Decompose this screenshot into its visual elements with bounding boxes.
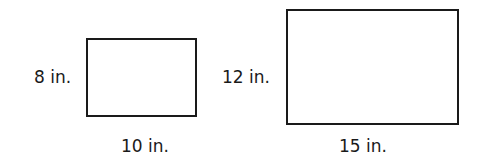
small-rectangle	[86, 38, 197, 117]
large-rectangle-width-label: 15 in.	[339, 136, 387, 156]
small-rectangle-height-label: 8 in.	[34, 67, 71, 87]
large-rectangle	[286, 9, 459, 125]
large-rectangle-height-label: 12 in.	[222, 67, 270, 87]
small-rectangle-width-label: 10 in.	[121, 136, 169, 156]
